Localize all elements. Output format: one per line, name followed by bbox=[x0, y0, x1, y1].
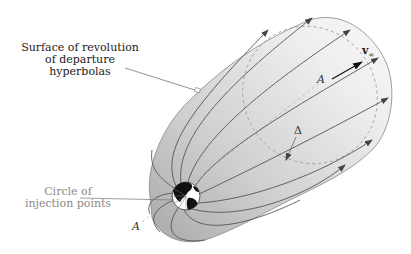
injection-label: Circle of injection points bbox=[18, 186, 118, 210]
velocity-subscript: ∞ bbox=[368, 51, 374, 59]
point-a-bottom: A bbox=[132, 220, 140, 233]
surface-label: Surface of revolution of departure hyper… bbox=[20, 42, 140, 78]
aiming-radius-label: Δ bbox=[294, 124, 302, 137]
injection-label-line2: injection points bbox=[18, 198, 118, 210]
departure-hyperbolas-diagram bbox=[0, 0, 411, 254]
surface-label-line2: of departure hyperbolas bbox=[20, 54, 140, 78]
point-a-top: A bbox=[317, 73, 325, 86]
velocity-label: v∞ bbox=[362, 44, 374, 59]
